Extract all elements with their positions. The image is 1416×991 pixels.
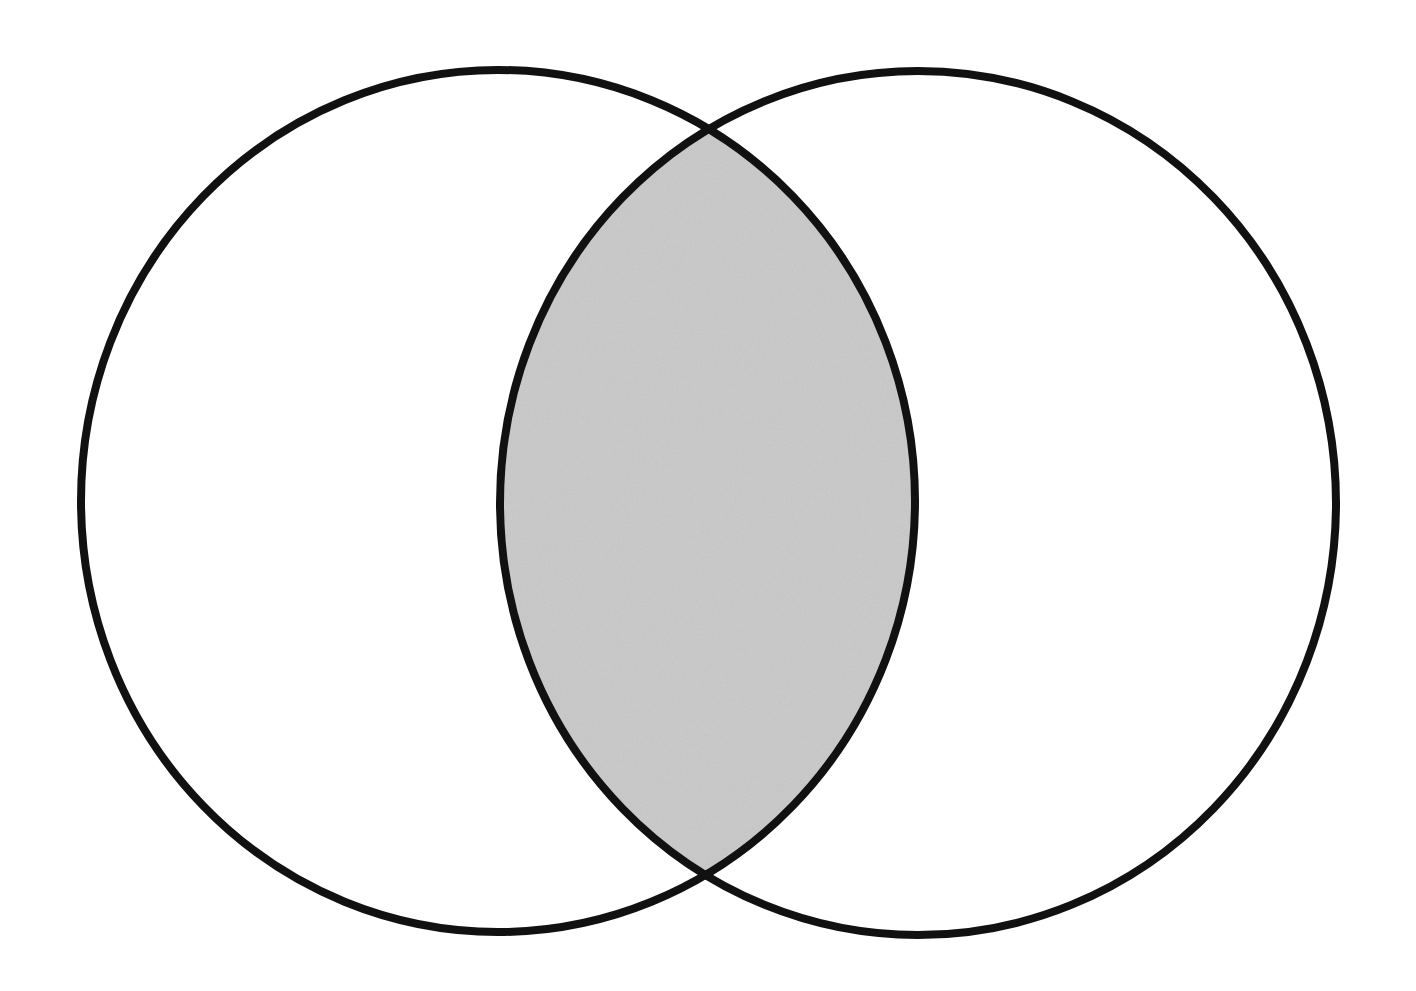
venn-diagram — [0, 0, 1416, 991]
